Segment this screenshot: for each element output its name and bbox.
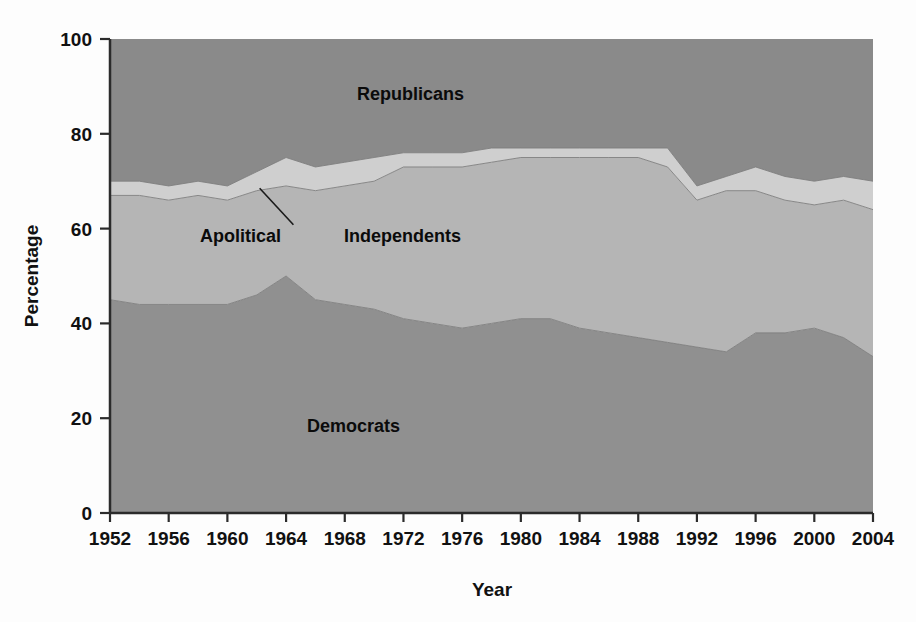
x-tick-label: 1972 — [382, 528, 424, 549]
x-tick-label: 1984 — [558, 528, 601, 549]
y-axis-title: Percentage — [21, 225, 42, 327]
x-tick-label: 1968 — [324, 528, 366, 549]
x-tick-label: 2004 — [852, 528, 895, 549]
x-tick-label: 1976 — [441, 528, 483, 549]
y-tick-label: 60 — [71, 219, 92, 240]
x-tick-label: 1980 — [500, 528, 542, 549]
x-tick-label: 2000 — [793, 528, 835, 549]
x-tick-label: 1952 — [89, 528, 131, 549]
y-tick-label: 100 — [60, 29, 92, 50]
x-tick-label: 1964 — [265, 528, 308, 549]
x-tick-label: 1960 — [206, 528, 248, 549]
y-tick-label: 0 — [81, 503, 92, 524]
y-tick-label: 80 — [71, 124, 92, 145]
x-tick-label: 1988 — [617, 528, 659, 549]
y-tick-label: 20 — [71, 408, 92, 429]
area-series-group — [110, 39, 873, 513]
series-label-republicans: Republicans — [357, 84, 464, 104]
series-label-apolitical: Apolitical — [200, 226, 281, 246]
series-label-independents: Independents — [344, 226, 461, 246]
series-label-democrats: Democrats — [307, 416, 400, 436]
chart-figure: 020406080100 195219561960196419681972197… — [0, 0, 916, 622]
stacked-area-chart: 020406080100 195219561960196419681972197… — [0, 0, 916, 622]
x-tick-label: 1956 — [148, 528, 190, 549]
y-tick-label: 40 — [71, 313, 92, 334]
x-tick-label: 1992 — [676, 528, 718, 549]
x-tick-label: 1996 — [734, 528, 776, 549]
x-axis-title: Year — [472, 579, 513, 600]
